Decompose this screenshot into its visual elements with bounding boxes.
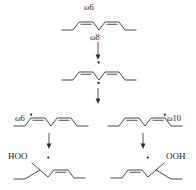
radical-dot-right-product [147,156,149,158]
structure-pentadienyl-radical [62,61,136,84]
reaction-arrow-down-left [47,133,52,149]
label-ooh-right: OOH [166,152,186,161]
label-hoo-left: HOO [8,152,28,161]
radical-dot-left-product [47,156,49,158]
radical-dot-omega6 [30,114,32,116]
label-omega6-top: ω6 [84,3,94,12]
structure-parent-diene [62,22,136,30]
radical-dot-upper [97,61,99,63]
label-omega6-left: ω6 [15,114,25,123]
structure-omega6-radical [14,114,88,127]
reaction-scheme: ω6 ω8 ω6 ω10 HOO OOH [0,0,196,190]
radical-dot-omega10 [164,114,166,116]
reaction-arrow-down-1 [96,42,101,60]
reaction-arrow-down-2 [96,88,101,104]
label-omega8-top: ω8 [90,33,100,42]
reaction-arrow-down-right [141,133,146,149]
label-omega10-right: ω10 [167,114,181,123]
radical-dot-lower [97,82,99,84]
reaction-scheme-canvas [0,0,196,190]
